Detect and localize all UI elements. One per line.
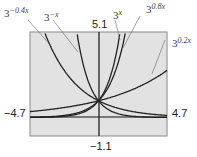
label-3-x: 3x <box>113 8 122 21</box>
ymax-label: 5.1 <box>92 18 107 30</box>
label-3-0.8x: 30.8x <box>146 2 165 15</box>
label-3-neg-0.4x: 3−0.4x <box>4 6 28 19</box>
ymin-label: −1.1 <box>90 140 112 152</box>
xmax-label: 4.7 <box>172 107 187 119</box>
xmin-label: −4.7 <box>4 107 26 119</box>
label-3-0.2x: 30.2x <box>172 36 191 49</box>
label-3-neg-x: 3−x <box>44 10 58 23</box>
